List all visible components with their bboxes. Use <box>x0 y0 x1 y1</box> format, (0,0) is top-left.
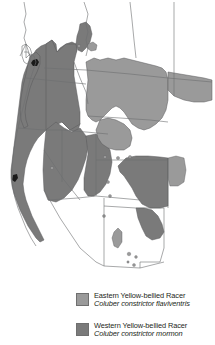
range-map-figure: Eastern Yellow-bellied Racer Coluber con… <box>0 0 215 345</box>
western-range-area <box>11 22 168 242</box>
legend-scientific-name-western: Coluber constrictor mormon <box>94 330 187 338</box>
legend-entry-eastern: Eastern Yellow-bellied Racer Coluber con… <box>76 292 215 309</box>
legend-swatch-eastern <box>76 293 89 306</box>
legend-scientific-name-eastern: Coluber constrictor flaviventris <box>94 300 190 308</box>
map-graphic <box>0 0 215 285</box>
legend-entry-western: Western Yellow-bellied Racer Coluber con… <box>76 322 215 339</box>
legend-swatch-western <box>76 323 89 336</box>
